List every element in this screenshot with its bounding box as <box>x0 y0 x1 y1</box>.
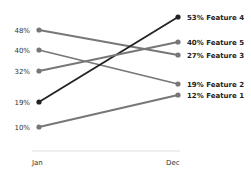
series-line-feature-4 <box>39 17 178 102</box>
data-point-start <box>36 27 41 32</box>
data-point-start <box>36 99 41 104</box>
end-value-label: 19% Feature 2 <box>187 81 244 89</box>
data-point-end <box>175 92 180 97</box>
data-point-end <box>175 39 180 44</box>
end-value-label: 12% Feature 1 <box>187 92 244 100</box>
end-value-label: 27% Feature 3 <box>187 52 244 60</box>
start-value-label: 32% <box>14 68 30 76</box>
data-point-end <box>175 81 180 86</box>
data-point-end <box>175 14 180 19</box>
end-value-label: 53% Feature 4 <box>187 14 244 22</box>
series-line-feature-1 <box>39 95 178 127</box>
end-value-label: 40% Feature 5 <box>187 39 244 47</box>
data-point-start <box>36 68 41 73</box>
start-value-label: 10% <box>14 124 30 132</box>
data-point-start <box>36 47 41 52</box>
start-value-label: 19% <box>14 99 30 107</box>
series-line-feature-3 <box>39 30 178 55</box>
start-value-label: 40% <box>14 47 30 55</box>
slope-chart: 10%12% Feature 140%19% Feature 248%27% F… <box>0 0 251 172</box>
x-label-dec: Dec <box>166 159 180 167</box>
data-point-start <box>36 124 41 129</box>
x-label-jan: Jan <box>31 159 43 167</box>
data-point-end <box>175 52 180 57</box>
start-value-label: 48% <box>14 27 30 35</box>
